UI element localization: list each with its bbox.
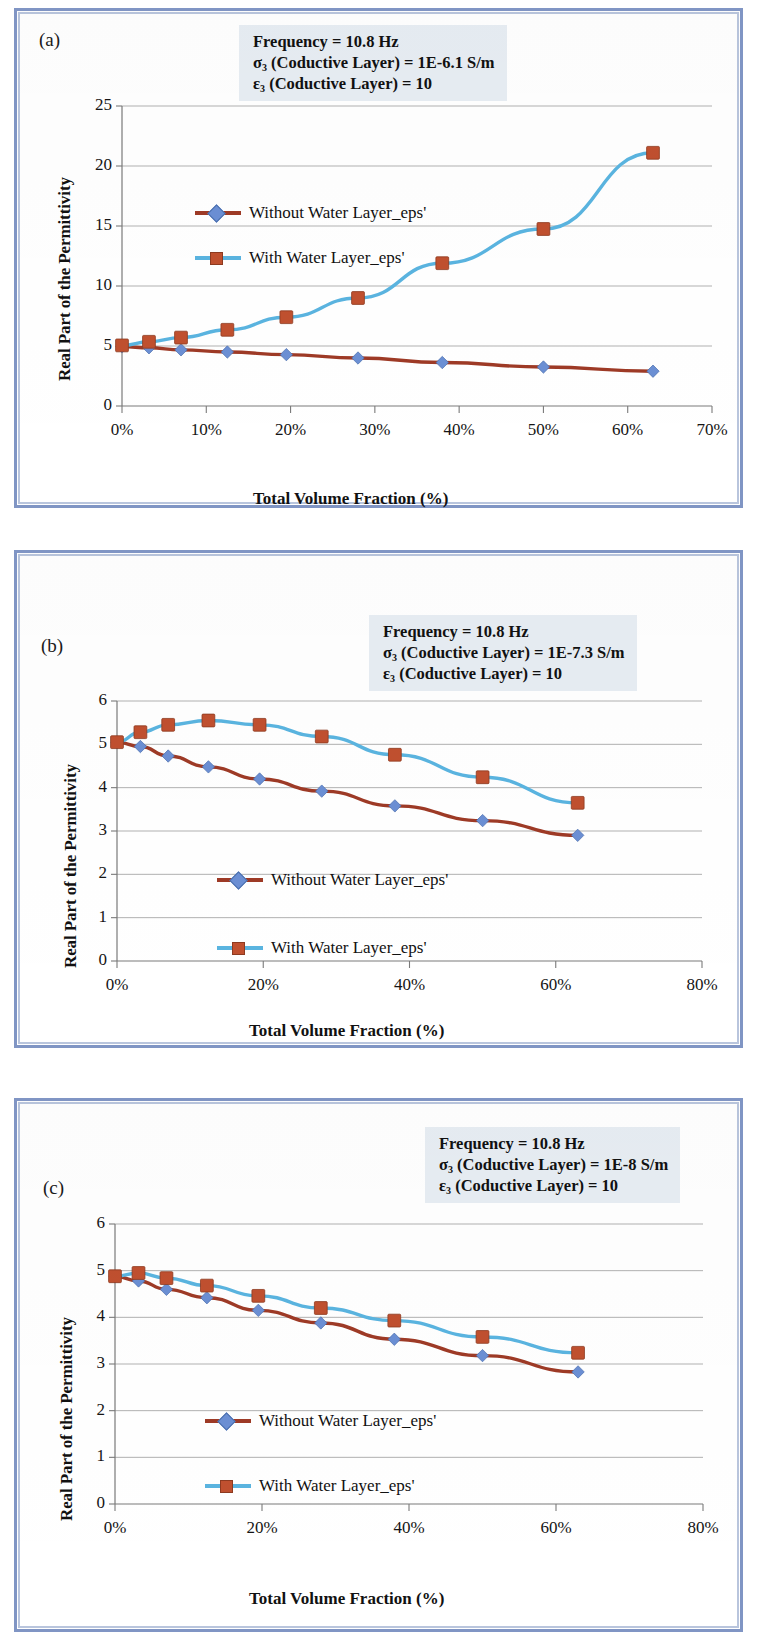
legend-swatch-diamond-icon bbox=[195, 205, 241, 221]
annotation-line-sigma: σ3 (Coductive Layer) = 1E-8 S/m bbox=[439, 1154, 668, 1175]
legend-label-without-water: Without Water Layer_eps' bbox=[259, 1411, 436, 1431]
legend-swatch-diamond-icon bbox=[205, 1413, 251, 1429]
panel-label-b: (b) bbox=[41, 635, 63, 657]
x-axis-title-c: Total Volume Fraction (%) bbox=[249, 1589, 444, 1609]
y-tick-label: 25 bbox=[68, 95, 112, 115]
x-tick-label: 40% bbox=[375, 975, 445, 995]
y-tick-label: 0 bbox=[68, 395, 112, 415]
chart-plot-c bbox=[115, 1224, 703, 1504]
y-tick-label: 15 bbox=[68, 215, 112, 235]
legend-label-with-water: With Water Layer_eps' bbox=[259, 1476, 415, 1496]
x-tick-label: 20% bbox=[228, 975, 298, 995]
x-tick-label: 60% bbox=[593, 420, 663, 440]
x-tick-label: 70% bbox=[677, 420, 747, 440]
y-tick-label: 6 bbox=[63, 690, 107, 710]
annotation-line-epsilon: ε3 (Coductive Layer) = 10 bbox=[383, 663, 625, 684]
legend-label-without-water: Without Water Layer_eps' bbox=[249, 203, 426, 223]
y-tick-label: 4 bbox=[61, 1306, 105, 1326]
legend-swatch-square-icon bbox=[205, 1478, 251, 1494]
x-tick-label: 0% bbox=[80, 1518, 150, 1538]
y-tick-label: 0 bbox=[63, 950, 107, 970]
x-tick-label: 40% bbox=[374, 1518, 444, 1538]
x-tick-label: 20% bbox=[256, 420, 326, 440]
y-tick-label: 4 bbox=[63, 777, 107, 797]
x-tick-label: 80% bbox=[668, 1518, 738, 1538]
legend-label-without-water: Without Water Layer_eps' bbox=[271, 870, 448, 890]
y-tick-label: 20 bbox=[68, 155, 112, 175]
legend-swatch-square-icon bbox=[195, 250, 241, 266]
x-tick-label: 0% bbox=[87, 420, 157, 440]
x-tick-label: 40% bbox=[424, 420, 494, 440]
x-tick-label: 80% bbox=[667, 975, 737, 995]
plot-area-b: (b) Frequency = 10.8 Hz σ3 (Coductive La… bbox=[17, 553, 740, 1045]
legend-item-without-water-b: Without Water Layer_eps' bbox=[217, 870, 448, 890]
legend-swatch-diamond-icon bbox=[217, 872, 263, 888]
legend-item-without-water-c: Without Water Layer_eps' bbox=[205, 1411, 436, 1431]
x-tick-label: 20% bbox=[227, 1518, 297, 1538]
annotation-line-sigma: σ3 (Coductive Layer) = 1E-7.3 S/m bbox=[383, 642, 625, 663]
annotation-line-frequency: Frequency = 10.8 Hz bbox=[253, 31, 495, 52]
x-tick-label: 60% bbox=[521, 1518, 591, 1538]
annotation-line-frequency: Frequency = 10.8 Hz bbox=[383, 621, 625, 642]
legend-label-with-water: With Water Layer_eps' bbox=[271, 938, 427, 958]
y-tick-label: 3 bbox=[61, 1353, 105, 1373]
y-tick-label: 0 bbox=[61, 1493, 105, 1513]
annotation-line-epsilon: ε3 (Coductive Layer) = 10 bbox=[439, 1175, 668, 1196]
x-tick-label: 60% bbox=[521, 975, 591, 995]
annotation-box-c: Frequency = 10.8 Hz σ3 (Coductive Layer)… bbox=[425, 1127, 680, 1203]
x-tick-label: 30% bbox=[340, 420, 410, 440]
chart-panel-c: (c) Frequency = 10.8 Hz σ3 (Coductive La… bbox=[14, 1098, 743, 1632]
panel-label-a: (a) bbox=[39, 29, 60, 51]
x-tick-label: 50% bbox=[508, 420, 578, 440]
y-tick-label: 10 bbox=[68, 275, 112, 295]
legend-item-with-water-b: With Water Layer_eps' bbox=[217, 938, 427, 958]
annotation-box-a: Frequency = 10.8 Hz σ3 (Coductive Layer)… bbox=[239, 25, 507, 101]
plot-area-a: (a) Frequency = 10.8 Hz σ3 (Coductive La… bbox=[17, 11, 740, 505]
y-tick-label: 5 bbox=[63, 733, 107, 753]
legend-label-with-water: With Water Layer_eps' bbox=[249, 248, 405, 268]
y-tick-label: 6 bbox=[61, 1213, 105, 1233]
annotation-line-epsilon: ε3 (Coductive Layer) = 10 bbox=[253, 73, 495, 94]
y-tick-label: 2 bbox=[61, 1400, 105, 1420]
plot-area-c: (c) Frequency = 10.8 Hz σ3 (Coductive La… bbox=[17, 1101, 740, 1629]
y-tick-label: 5 bbox=[61, 1260, 105, 1280]
annotation-line-frequency: Frequency = 10.8 Hz bbox=[439, 1133, 668, 1154]
chart-plot-b bbox=[117, 701, 702, 961]
y-tick-label: 1 bbox=[61, 1446, 105, 1466]
y-tick-label: 1 bbox=[63, 907, 107, 927]
x-tick-label: 10% bbox=[171, 420, 241, 440]
legend-item-without-water-a: Without Water Layer_eps' bbox=[195, 203, 426, 223]
x-axis-title-a: Total Volume Fraction (%) bbox=[253, 489, 448, 509]
y-tick-label: 3 bbox=[63, 820, 107, 840]
panel-label-c: (c) bbox=[43, 1177, 64, 1199]
legend-swatch-square-icon bbox=[217, 940, 263, 956]
chart-panel-a: (a) Frequency = 10.8 Hz σ3 (Coductive La… bbox=[14, 8, 743, 508]
legend-item-with-water-a: With Water Layer_eps' bbox=[195, 248, 405, 268]
annotation-line-sigma: σ3 (Coductive Layer) = 1E-6.1 S/m bbox=[253, 52, 495, 73]
y-tick-label: 5 bbox=[68, 335, 112, 355]
chart-panel-b: (b) Frequency = 10.8 Hz σ3 (Coductive La… bbox=[14, 550, 743, 1048]
y-tick-label: 2 bbox=[63, 863, 107, 883]
x-axis-title-b: Total Volume Fraction (%) bbox=[249, 1021, 444, 1041]
annotation-box-b: Frequency = 10.8 Hz σ3 (Coductive Layer)… bbox=[369, 615, 637, 691]
legend-item-with-water-c: With Water Layer_eps' bbox=[205, 1476, 415, 1496]
x-tick-label: 0% bbox=[82, 975, 152, 995]
